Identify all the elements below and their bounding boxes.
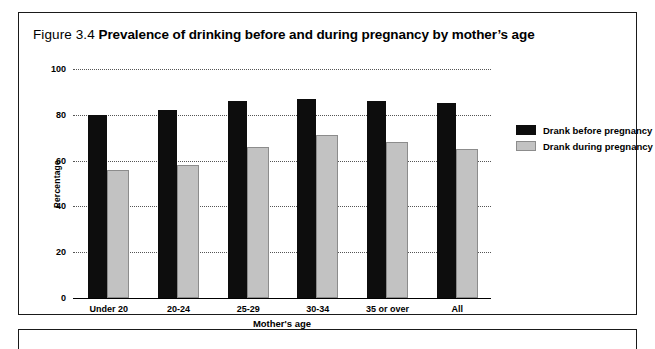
y-tick-label: 0 bbox=[61, 293, 66, 303]
bar-group bbox=[158, 69, 199, 298]
figure-caption: Prevalence of drinking before and during… bbox=[99, 27, 535, 42]
bar-group bbox=[297, 69, 338, 298]
bar-during bbox=[386, 142, 408, 298]
gridline-60 bbox=[73, 161, 491, 162]
y-axis-title: Percentage bbox=[52, 160, 62, 208]
figure-title: Figure 3.4 Prevalence of drinking before… bbox=[33, 27, 535, 43]
bar-before bbox=[297, 99, 316, 298]
bar-during bbox=[456, 149, 478, 298]
legend-item: Drank during pregnancy bbox=[516, 139, 653, 153]
bar-before bbox=[158, 110, 177, 298]
next-figure-container bbox=[18, 329, 637, 349]
y-tick-label: 60 bbox=[56, 156, 66, 166]
bar-group bbox=[88, 69, 129, 298]
x-tick-label: 25-29 bbox=[237, 304, 260, 314]
chart-plot-area: Percentage 020406080100 Under 2020-2425-… bbox=[73, 69, 491, 298]
x-axis-title: Mother's age bbox=[253, 318, 311, 329]
x-tick-label: All bbox=[451, 304, 463, 314]
bar-during bbox=[177, 165, 199, 298]
x-tick-label: Under 20 bbox=[90, 304, 129, 314]
bar-before bbox=[437, 103, 456, 298]
bar-before bbox=[88, 115, 107, 298]
gridline-100 bbox=[73, 69, 491, 70]
bar-group bbox=[437, 69, 478, 298]
bar-group bbox=[367, 69, 408, 298]
gridline-20 bbox=[73, 252, 491, 253]
bar-during bbox=[247, 147, 269, 298]
bar-before bbox=[228, 101, 247, 298]
chart-legend: Drank before pregnancyDrank during pregn… bbox=[516, 123, 653, 155]
x-tick-label: 20-24 bbox=[167, 304, 190, 314]
legend-item: Drank before pregnancy bbox=[516, 123, 653, 137]
legend-swatch-black bbox=[516, 125, 536, 135]
y-tick-label: 80 bbox=[56, 110, 66, 120]
figure-container: Figure 3.4 Prevalence of drinking before… bbox=[18, 12, 637, 315]
gridline-80 bbox=[73, 115, 491, 116]
bar-during bbox=[107, 170, 129, 298]
bar-during bbox=[316, 135, 338, 298]
y-tick-label: 40 bbox=[56, 201, 66, 211]
legend-swatch-gray bbox=[516, 141, 536, 151]
legend-item-label: Drank before pregnancy bbox=[543, 125, 652, 136]
y-tick-label: 20 bbox=[56, 247, 66, 257]
gridline-40 bbox=[73, 206, 491, 207]
x-tick-label: 35 or over bbox=[366, 304, 409, 314]
y-tick-label: 100 bbox=[51, 64, 66, 74]
bar-group bbox=[228, 69, 269, 298]
bar-before bbox=[367, 101, 386, 298]
gridline-0 bbox=[73, 298, 491, 299]
figure-number: Figure 3.4 bbox=[33, 27, 95, 42]
legend-item-label: Drank during pregnancy bbox=[543, 141, 653, 152]
x-tick-label: 30-34 bbox=[306, 304, 329, 314]
